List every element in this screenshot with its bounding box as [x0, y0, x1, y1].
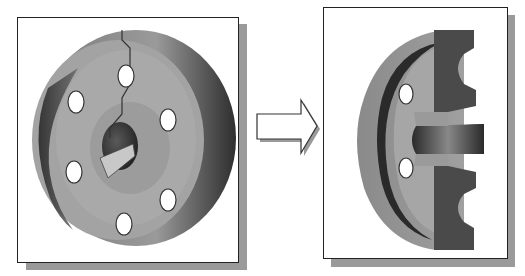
- section-view-illustration: [324, 8, 509, 260]
- full-flange-illustration: [18, 18, 240, 264]
- caption-fragment: [0, 0, 525, 3]
- right-panel: [323, 7, 508, 259]
- left-panel: [17, 17, 239, 263]
